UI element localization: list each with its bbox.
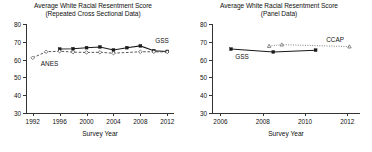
x-tick-label: 2008 xyxy=(127,118,153,125)
data-point-gss xyxy=(72,47,75,50)
y-tick-label: 70 xyxy=(4,38,21,45)
x-tick xyxy=(60,113,61,116)
y-tick-label: 60 xyxy=(190,56,207,63)
data-point-gss xyxy=(272,51,275,54)
y-tick xyxy=(23,113,26,114)
x-tick-label: 2010 xyxy=(292,118,318,125)
y-tick xyxy=(209,113,212,114)
series-annotation-gss: GSS xyxy=(155,37,169,44)
y-tick-label: 30 xyxy=(4,110,21,117)
data-point-anes xyxy=(98,51,102,55)
data-point-ccap xyxy=(280,43,283,46)
x-tick xyxy=(347,113,348,116)
data-point-ccap xyxy=(267,44,270,47)
x-tick-label: 2000 xyxy=(74,118,100,125)
data-point-gss xyxy=(139,44,142,47)
data-point-gss xyxy=(125,46,128,49)
series-annotation-gss: GSS xyxy=(235,53,249,60)
data-point-gss xyxy=(230,48,233,51)
data-point-ccap xyxy=(348,45,351,48)
data-point-anes xyxy=(112,51,116,55)
x-axis-line xyxy=(212,113,360,114)
x-tick-label: 2012 xyxy=(154,118,180,125)
y-tick-label: 50 xyxy=(190,74,207,81)
y-tick-label: 80 xyxy=(190,21,207,28)
y-tick-label: 40 xyxy=(190,92,207,99)
x-tick-label: 1996 xyxy=(47,118,73,125)
x-axis-line xyxy=(26,113,174,114)
x-tick xyxy=(87,113,88,116)
panel-title-right-line2: (Panel Data) xyxy=(186,10,372,18)
series-annotation-anes: ANES xyxy=(41,60,58,67)
panel-title-left: Average White Racial Resentment Score (R… xyxy=(0,2,186,18)
x-tick xyxy=(263,113,264,116)
x-tick xyxy=(140,113,141,116)
data-point-anes xyxy=(71,50,75,54)
x-tick-label: 2012 xyxy=(334,118,360,125)
data-point-anes xyxy=(139,50,143,54)
figure-container: Average White Racial Resentment Score (R… xyxy=(0,0,372,152)
x-axis-label: Survey Year xyxy=(26,130,174,137)
y-tick-label: 40 xyxy=(4,92,21,99)
y-tick-label: 50 xyxy=(4,74,21,81)
y-tick-label: 60 xyxy=(4,56,21,63)
x-tick-label: 2008 xyxy=(250,118,276,125)
data-point-gss xyxy=(314,49,317,52)
x-tick xyxy=(220,113,221,116)
plot-area-left: 304050607080199219962000200420082012Surv… xyxy=(26,24,174,113)
series-layer xyxy=(26,24,174,113)
series-annotation-ccap: CCAP xyxy=(326,36,344,43)
data-point-anes xyxy=(85,51,89,55)
chart-panel-panel-data: Average White Racial Resentment Score (P… xyxy=(186,0,372,152)
data-point-anes xyxy=(31,56,35,60)
plot-area-right: 3040506070802006200820102012Survey YearC… xyxy=(212,24,360,113)
x-tick xyxy=(167,113,168,116)
panel-title-right-line1: Average White Racial Resentment Score xyxy=(220,2,338,9)
y-tick-label: 70 xyxy=(190,38,207,45)
data-point-gss xyxy=(99,46,102,49)
y-tick-label: 80 xyxy=(4,21,21,28)
panel-title-right: Average White Racial Resentment Score (P… xyxy=(186,2,372,18)
chart-panel-repeated-cross-sectional: Average White Racial Resentment Score (R… xyxy=(0,0,186,152)
panel-title-left-line1: Average White Racial Resentment Score xyxy=(34,2,152,9)
data-point-gss xyxy=(85,46,88,49)
x-tick-label: 2004 xyxy=(100,118,126,125)
x-tick-label: 1992 xyxy=(20,118,46,125)
x-tick-label: 2006 xyxy=(207,118,233,125)
y-tick-label: 30 xyxy=(190,110,207,117)
x-tick xyxy=(33,113,34,116)
x-axis-label: Survey Year xyxy=(212,130,360,137)
x-tick xyxy=(305,113,306,116)
x-tick xyxy=(113,113,114,116)
panel-title-left-line2: (Repeated Cross Sectional Data) xyxy=(0,10,186,18)
data-point-anes xyxy=(44,50,48,54)
